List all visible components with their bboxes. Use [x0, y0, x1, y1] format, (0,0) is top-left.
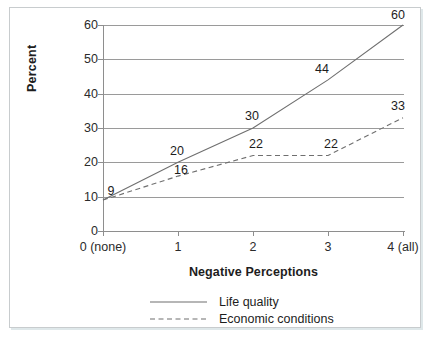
series-economic-conditions-line — [103, 118, 403, 200]
y-tick-label-50: 50 — [58, 53, 98, 66]
x-tick-label-1: 1 — [175, 241, 182, 254]
x-axis-title: Negative Perceptions — [103, 265, 404, 279]
point-label-life-quality-1: 20 — [170, 145, 184, 158]
legend-label-economic-conditions: Economic conditions — [219, 312, 334, 326]
point-label-economic-conditions-4: 33 — [391, 100, 405, 113]
x-tick-label-2: 2 — [250, 241, 257, 254]
series-canvas — [103, 25, 404, 232]
legend-item-economic-conditions[interactable]: Economic conditions — [150, 310, 334, 327]
x-tick-label-4: 4 (all) — [387, 241, 418, 254]
point-label-life-quality-0: 9 — [108, 185, 115, 198]
x-tick-label-3: 3 — [325, 241, 332, 254]
y-tick-label-0: 0 — [58, 225, 98, 238]
y-tick-label-40: 40 — [58, 88, 98, 101]
x-tick-label-0: 0 (none) — [80, 241, 127, 254]
legend-swatch-solid-icon — [150, 297, 207, 307]
y-tick-label-20: 20 — [58, 156, 98, 169]
point-label-life-quality-3: 44 — [315, 63, 329, 76]
point-label-life-quality-2: 30 — [245, 110, 259, 123]
chart-legend: Life quality Economic conditions — [150, 293, 334, 327]
legend-label-life-quality: Life quality — [219, 295, 279, 309]
y-tick-label-30: 30 — [58, 122, 98, 135]
point-label-life-quality-4: 60 — [391, 9, 405, 22]
point-label-economic-conditions-2: 22 — [249, 138, 263, 151]
plot-area: 60 50 40 30 20 10 0 0 (none) 1 2 3 4 (al… — [103, 25, 404, 231]
legend-swatch-dashed-icon — [150, 314, 207, 324]
point-label-economic-conditions-1: 16 — [174, 164, 188, 177]
chart-figure: Percent 60 50 40 30 20 10 0 0 (no — [0, 0, 430, 339]
y-tick-label-10: 10 — [58, 191, 98, 204]
point-label-economic-conditions-3: 22 — [324, 138, 338, 151]
y-tick-label-60: 60 — [58, 19, 98, 32]
legend-item-life-quality[interactable]: Life quality — [150, 293, 334, 310]
y-axis-title: Percent — [25, 45, 39, 92]
